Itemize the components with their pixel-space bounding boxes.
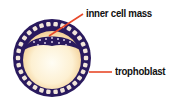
trophoblast-label: trophoblast [115, 65, 165, 77]
inner-cell-mass-label: inner cell mass [86, 7, 152, 19]
